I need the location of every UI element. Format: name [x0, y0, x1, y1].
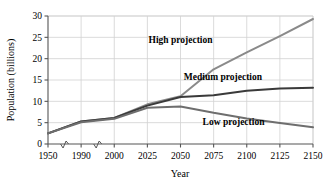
population-projection-chart: 051015202530 195019902000202520502075210…: [0, 0, 330, 187]
x-axis-tick-label: 1950: [39, 151, 58, 161]
series-annotation: High projection: [149, 35, 214, 45]
series-annotation: Low projection: [203, 117, 266, 127]
x-axis-tick-label: 2050: [171, 151, 190, 161]
y-axis-tick-labels: 051015202530: [33, 11, 43, 149]
x-axis-tick-label: 2125: [270, 151, 289, 161]
chart-canvas: 051015202530 195019902000202520502075210…: [0, 0, 330, 187]
series-annotation-labels: High projectionMedium projectionLow proj…: [149, 35, 266, 127]
x-axis-tick-label: 2025: [138, 151, 157, 161]
y-axis-tick-label: 20: [33, 54, 43, 64]
x-axis-tick-label: 1990: [72, 151, 91, 161]
y-axis-tick-label: 10: [33, 97, 43, 107]
x-axis-tick-label: 2100: [237, 151, 256, 161]
y-axis-tick-label: 15: [33, 75, 43, 85]
series-annotation: Medium projection: [184, 72, 263, 82]
x-axis-tick-labels: 195019902000202520502075210021252150: [39, 151, 323, 161]
y-axis-tick-label: 25: [33, 33, 43, 43]
y-axis-title: Population (billions): [5, 39, 17, 122]
x-axis-tick-label: 2000: [105, 151, 124, 161]
x-axis-tick-label: 2150: [304, 151, 323, 161]
y-axis-tick-label: 30: [33, 11, 43, 21]
y-axis-tick-label: 0: [37, 139, 42, 149]
y-axis-tick-label: 5: [37, 118, 42, 128]
x-axis-tick-label: 2075: [204, 151, 223, 161]
x-axis-title: Year: [171, 168, 190, 179]
